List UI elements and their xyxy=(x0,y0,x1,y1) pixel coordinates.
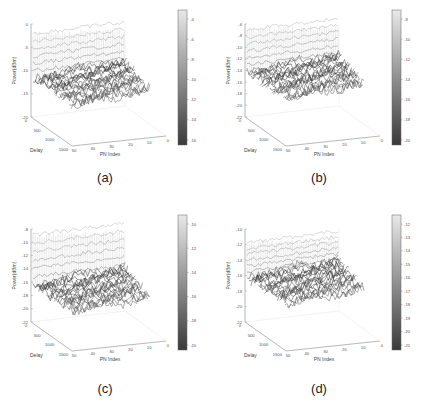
svg-text:-10: -10 xyxy=(236,45,243,50)
svg-text:-10: -10 xyxy=(22,68,29,73)
svg-text:50: 50 xyxy=(72,353,77,358)
svg-text:-10: -10 xyxy=(236,227,243,232)
svg-text:-12: -12 xyxy=(190,97,197,102)
svg-text:Delay: Delay xyxy=(30,352,43,358)
svg-text:Delay: Delay xyxy=(244,352,257,358)
svg-text:-20: -20 xyxy=(404,329,411,334)
svg-text:-15: -15 xyxy=(22,91,29,96)
subplot-d: -10-12-14-16-18-20-220500100015005040302… xyxy=(214,205,428,415)
svg-text:30: 30 xyxy=(109,349,114,354)
svg-text:50: 50 xyxy=(72,148,77,153)
svg-text:-16: -16 xyxy=(236,80,243,85)
svg-text:-14: -14 xyxy=(236,68,243,73)
svg-text:-15: -15 xyxy=(404,262,411,267)
svg-text:50: 50 xyxy=(286,148,291,153)
svg-text:10: 10 xyxy=(147,140,152,145)
svg-text:50: 50 xyxy=(286,353,291,358)
svg-text:-21: -21 xyxy=(404,343,411,348)
svg-text:-4: -4 xyxy=(190,17,194,22)
svg-text:-18: -18 xyxy=(404,302,411,307)
subplot-c: -8-10-12-14-16-18-20-2205001000150050403… xyxy=(0,205,214,415)
svg-text:-10: -10 xyxy=(190,77,197,82)
svg-text:PN Index: PN Index xyxy=(100,151,121,157)
svg-text:500: 500 xyxy=(34,333,42,338)
svg-text:-14: -14 xyxy=(236,258,243,263)
svg-text:-6: -6 xyxy=(238,22,242,27)
svg-text:1000: 1000 xyxy=(259,137,269,142)
svg-text:-16: -16 xyxy=(236,273,243,278)
svg-text:1000: 1000 xyxy=(45,342,55,347)
panel-caption-c: (c) xyxy=(85,381,125,396)
svg-text:-10: -10 xyxy=(404,37,411,42)
svg-text:20: 20 xyxy=(128,347,133,352)
svg-text:30: 30 xyxy=(323,349,328,354)
svg-text:0: 0 xyxy=(26,22,29,27)
svg-text:-20: -20 xyxy=(236,103,243,108)
svg-text:-16: -16 xyxy=(190,294,197,299)
svg-text:-12: -12 xyxy=(236,242,243,247)
svg-text:1500: 1500 xyxy=(273,147,283,152)
svg-text:0: 0 xyxy=(381,343,384,348)
panel-caption-b: (b) xyxy=(299,170,339,185)
svg-text:-16: -16 xyxy=(190,138,197,143)
svg-text:-18: -18 xyxy=(404,117,411,122)
subplot-a: 0-5-10-15-2005001000150050403020100Power… xyxy=(0,0,214,210)
svg-text:-12: -12 xyxy=(22,253,29,258)
svg-text:-18: -18 xyxy=(236,289,243,294)
svg-text:Power(dBm): Power(dBm) xyxy=(225,56,231,84)
colorbar-c xyxy=(178,215,187,350)
svg-text:20: 20 xyxy=(128,142,133,147)
svg-text:-8: -8 xyxy=(238,33,242,38)
svg-text:-18: -18 xyxy=(22,293,29,298)
svg-text:-12: -12 xyxy=(404,222,411,227)
colorbar-b xyxy=(392,10,401,145)
svg-text:40: 40 xyxy=(90,351,95,356)
svg-text:20: 20 xyxy=(342,142,347,147)
svg-text:PN Index: PN Index xyxy=(100,356,121,362)
svg-text:0: 0 xyxy=(167,343,170,348)
svg-text:-16: -16 xyxy=(404,97,411,102)
svg-text:-20: -20 xyxy=(190,343,197,348)
svg-text:Power(dBm): Power(dBm) xyxy=(11,261,17,289)
svg-text:40: 40 xyxy=(304,351,309,356)
svg-text:-14: -14 xyxy=(22,266,29,271)
svg-text:-8: -8 xyxy=(24,227,28,232)
svg-text:Delay: Delay xyxy=(30,147,43,153)
svg-text:-19: -19 xyxy=(404,316,411,321)
colorbar-a xyxy=(178,10,187,145)
svg-text:-14: -14 xyxy=(190,117,197,122)
svg-text:-10: -10 xyxy=(190,222,197,227)
svg-text:-12: -12 xyxy=(236,56,243,61)
svg-text:500: 500 xyxy=(34,128,42,133)
svg-text:-18: -18 xyxy=(190,318,197,323)
svg-text:1500: 1500 xyxy=(59,147,69,152)
svg-text:-16: -16 xyxy=(22,280,29,285)
svg-text:-6: -6 xyxy=(190,37,194,42)
svg-text:1500: 1500 xyxy=(59,352,69,357)
svg-text:10: 10 xyxy=(147,345,152,350)
svg-text:10: 10 xyxy=(361,140,366,145)
panel-caption-a: (a) xyxy=(85,170,125,185)
svg-text:Power(dBm): Power(dBm) xyxy=(11,56,17,84)
svg-text:20: 20 xyxy=(342,347,347,352)
svg-text:-14: -14 xyxy=(404,248,411,253)
svg-text:-20: -20 xyxy=(22,306,29,311)
svg-text:-10: -10 xyxy=(22,240,29,245)
svg-text:500: 500 xyxy=(248,128,256,133)
svg-text:-8: -8 xyxy=(190,57,194,62)
svg-text:-12: -12 xyxy=(190,246,197,251)
svg-text:-18: -18 xyxy=(236,91,243,96)
svg-text:1000: 1000 xyxy=(259,342,269,347)
svg-text:0: 0 xyxy=(167,138,170,143)
svg-text:1000: 1000 xyxy=(45,137,55,142)
svg-text:Delay: Delay xyxy=(244,147,257,153)
svg-text:-5: -5 xyxy=(24,45,28,50)
svg-text:-13: -13 xyxy=(404,235,411,240)
colorbar-d xyxy=(392,215,401,350)
svg-text:-20: -20 xyxy=(404,138,411,143)
svg-text:30: 30 xyxy=(323,144,328,149)
svg-text:30: 30 xyxy=(109,144,114,149)
panel-caption-d: (d) xyxy=(299,381,339,396)
svg-text:-12: -12 xyxy=(404,57,411,62)
svg-text:-14: -14 xyxy=(190,270,197,275)
